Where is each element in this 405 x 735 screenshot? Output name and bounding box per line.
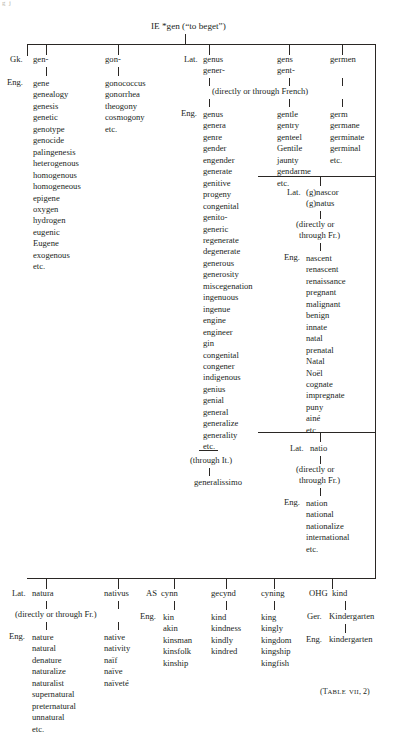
- gon-root-to-eng-connector: [118, 67, 119, 76]
- list-item: genera: [203, 120, 253, 131]
- right-bracket-edge: [375, 44, 376, 578]
- column-genus-root1: genus: [203, 55, 223, 64]
- page-artifact: g j: [2, 0, 11, 7]
- list-item: generality: [203, 430, 253, 441]
- list-item: etc.: [33, 261, 81, 272]
- list-item: germinate: [330, 132, 364, 143]
- column-natio-root: natio: [310, 444, 327, 453]
- list-item: kinsman: [163, 635, 192, 646]
- list-item: etc.: [105, 124, 146, 135]
- list-item: progeny: [203, 189, 253, 200]
- list-item: renaissance: [306, 276, 346, 287]
- list-item: genus: [203, 109, 253, 120]
- column-gecynd-root: gecynd: [211, 589, 236, 598]
- column-ohg-kind-lang-label: OHG: [309, 589, 328, 598]
- list-item: natal: [306, 333, 346, 344]
- list-item: impregnate: [306, 390, 346, 401]
- list-item: generalize: [203, 418, 253, 429]
- column-natio-eng-label: Eng.: [284, 498, 300, 507]
- column-nascor-root1: (g)nascor: [306, 188, 339, 197]
- gen-root-to-eng-connector: [46, 67, 47, 76]
- list-item: generosity: [203, 269, 253, 280]
- list-item: naïve: [104, 666, 130, 677]
- list-item: genealogy: [33, 89, 81, 100]
- table-caption: (TABLEVII, 2): [320, 688, 370, 696]
- list-item: naturalist: [32, 678, 76, 689]
- fr-to-nascor-eng-connector: [320, 243, 321, 251]
- list-item: genocide: [33, 135, 81, 146]
- column-ohg-ger-label: Ger.: [307, 612, 322, 621]
- column-gecynd-word-list: kind kindness kindly kindred: [211, 612, 241, 658]
- list-item: germ: [330, 109, 364, 120]
- column-genus-eng-label: Eng.: [181, 109, 197, 118]
- natura-directly-through-fr-note: (directly or through Fr.): [15, 610, 97, 619]
- list-item: Noël: [306, 368, 346, 379]
- caption-table-word: ABLE: [328, 688, 346, 695]
- gecynd-to-eng-connector: [226, 601, 227, 610]
- column-nascor-lang-label: Lat.: [287, 188, 301, 197]
- list-item: general: [203, 407, 253, 418]
- fr-to-natura-eng-connector: [46, 622, 47, 630]
- list-item: gonococcus: [105, 78, 146, 89]
- column-germen-root: germen: [330, 55, 356, 64]
- natio-to-fr-connector: [320, 456, 321, 464]
- list-item: oxygen: [33, 204, 81, 215]
- column-genus-lang-label: Lat.: [184, 55, 198, 64]
- column-gon-root: gon-: [105, 55, 121, 64]
- list-item: hydrogen: [33, 215, 81, 226]
- list-item: kindred: [211, 646, 241, 657]
- column-natio-word-list: nation national nationalize internationa…: [306, 498, 349, 555]
- list-item: heterogenous: [33, 158, 81, 169]
- list-item: homogenous: [33, 170, 81, 181]
- list-item: genesis: [33, 101, 81, 112]
- column-nascor-word-list: nascent renascent renaissance pregnant m…: [306, 253, 346, 436]
- list-item: kin: [163, 612, 192, 623]
- germen-to-french-connector: [342, 78, 343, 86]
- natio-through-fr-note: through Fr.): [299, 476, 340, 485]
- nativus-to-fr-connector: [118, 601, 119, 609]
- caption-open: (T: [320, 687, 328, 696]
- through-italian-note: (through It.): [190, 456, 232, 465]
- list-item: gonorrhea: [105, 89, 146, 100]
- column-nativus-root: nativus: [104, 589, 129, 598]
- cyning-to-eng-connector: [274, 601, 275, 610]
- column-gens-word-list: gentle gentry genteel Gentile jaunty gen…: [277, 109, 311, 189]
- column-cyning-word-list: king kingly kingdom kingship kingfish: [261, 612, 292, 669]
- column-germen-word-list: germ germane germinate germinal etc.: [330, 109, 364, 166]
- column-gon-word-list: gonococcus gonorrhea theogony cosmogony …: [105, 78, 146, 135]
- column-natura-root: natura: [32, 589, 54, 598]
- list-item: etc.: [306, 544, 349, 555]
- ger-to-eng-connector: [345, 624, 346, 633]
- list-item: etc.: [330, 155, 364, 166]
- list-item: miscegenation: [203, 281, 253, 292]
- french-to-gens-eng-connector: [289, 99, 290, 107]
- list-item: kingdom: [261, 635, 292, 646]
- root-etymon-label: IE *gen (“to beget”): [151, 22, 226, 31]
- column-natura-eng-label: Eng.: [9, 632, 25, 641]
- list-item: pregnant: [306, 287, 346, 298]
- list-item: engine: [203, 315, 253, 326]
- list-item: international: [306, 532, 349, 543]
- column-natura-lang-label: Lat.: [12, 589, 26, 598]
- list-item: genre: [203, 132, 253, 143]
- list-item: nationalize: [306, 521, 349, 532]
- list-item: kinship: [163, 658, 192, 669]
- list-item: gentry: [277, 120, 311, 131]
- list-item: generic: [203, 224, 253, 235]
- column-natio-lang-label: Lat.: [290, 444, 304, 453]
- column-cyning-root: cyning: [261, 589, 285, 598]
- list-item: benign: [306, 310, 346, 321]
- column-ohg-ger-word: Kindergarten: [329, 612, 374, 621]
- list-item: kingship: [261, 646, 292, 657]
- caption-tail: , 2): [359, 687, 370, 696]
- list-item: engender: [203, 155, 253, 166]
- natio-branch-rule: [258, 432, 376, 433]
- column-gen-root: gen-: [33, 55, 48, 64]
- list-item: epigene: [33, 193, 81, 204]
- list-item: ainé: [306, 413, 346, 424]
- list-item: kingly: [261, 623, 292, 634]
- list-item: king: [261, 612, 292, 623]
- list-item: malignant: [306, 299, 346, 310]
- french-to-germen-eng-connector: [342, 99, 343, 107]
